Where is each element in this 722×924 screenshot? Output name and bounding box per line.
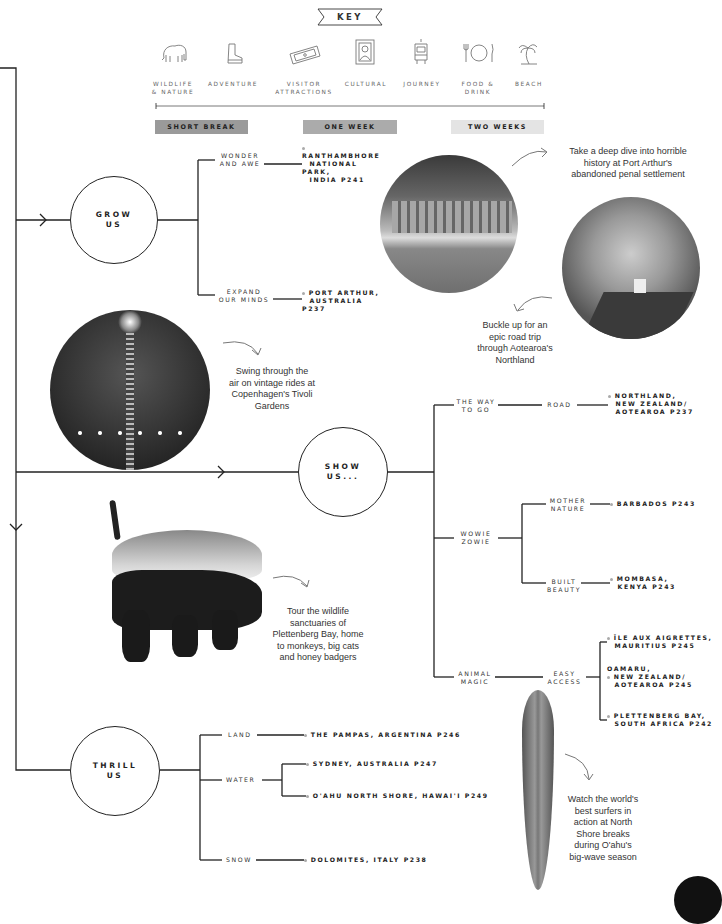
dest-the-pampas: THE PAMPAS, ARGENTINA P246 [304,731,504,739]
dest-ranthambhore: RANTHAMBHORE NATIONAL PARK, INDIA P241 [302,144,382,184]
key-title-banner: KEY [316,8,384,26]
blurb-port-arthur: Take a deep dive into horriblehistory at… [548,146,708,181]
dest-northland: NORTHLAND, NEW ZEALAND/ AOTEAROA P237 [608,392,718,416]
branch-road: ROAD [542,401,577,409]
dest-sydney: SYDNEY, AUSTRALIA P247 [306,760,506,768]
tivoli-ride-photo [50,310,210,470]
tram-icon [411,38,431,66]
dest-dolomites: DOLOMITES, ITALY P238 [304,856,504,864]
branch-land: LAND [228,731,252,739]
honey-badger-photo [112,500,262,670]
branch-expand-our-minds: EXPANDOUR MINDS [215,288,273,304]
node-grow-us: GROWUS [70,176,158,264]
port-arthur-ruins-photo [380,155,518,293]
branch-built-beauty: BUILTBEAUTY [546,578,582,594]
dest-mombasa: MOMBASA, KENYA P243 [610,575,718,591]
duration-one-week: ONE WEEK [303,120,397,134]
key-label-beach: BEACH [506,80,552,88]
node-thrill-us: THRILLUS [70,726,160,816]
key-label-food-drink: FOOD &DRINK [454,80,502,96]
branch-animal-magic: ANIMALMAGIC [454,670,496,686]
branch-wonder-and-awe: WONDERAND AWE [215,152,265,168]
page-number-badge [674,876,722,924]
ticket-icon [287,44,323,66]
branch-the-way-to-go: THE WAYTO GO [454,398,498,414]
blurb-oahu: Watch the world'sbest surfers inaction a… [562,794,644,863]
dest-ile-aux-aigrettes: ÎLE AUX AIGRETTES, MAURITIUS P245 [607,634,718,650]
blurb-tivoli: Swing through theair on vintage rides at… [222,366,322,412]
dest-plettenberg-bay: PLETTENBERG BAY, SOUTH AFRICA P242 [607,712,718,728]
blurb-northland: Buckle up for anepic road tripthrough Ao… [470,320,560,366]
branch-water: WATER [226,776,256,784]
key-label-journey: JOURNEY [398,80,446,88]
branch-snow: SNOW [226,856,252,864]
key-label-adventure: ADVENTURE [205,80,261,88]
blurb-plettenberg: Tour the wildlifesanctuaries ofPlettenbe… [268,606,368,664]
key-label-visitor-attractions: VISITORATTRACTIONS [272,80,336,96]
dest-barbados: BARBADOS P243 [610,500,718,508]
dest-oamaru: OAMARU, NEW ZEALAND/ AOTEAROA P245 [607,665,718,689]
node-show-us: SHOWUS... [298,427,388,517]
duration-short-break: SHORT BREAK [155,120,248,134]
northland-road-photo [562,197,700,339]
branch-mother-nature: MOTHERNATURE [546,497,590,513]
plate-cutlery-icon [462,42,496,64]
boot-icon [224,42,246,66]
dest-oahu-north-shore: O'AHU NORTH SHORE, HAWAI'I P249 [306,792,526,800]
palm-tree-icon [517,40,539,66]
duration-two-weeks: TWO WEEKS [451,120,544,134]
framed-portrait-icon [354,38,376,66]
key-title: KEY [316,12,384,22]
branch-wowie-zowie: WOWIEZOWIE [454,530,498,546]
key-label-cultural: CULTURAL [338,80,394,88]
branch-easy-access: EASYACCESS [543,670,586,686]
elephant-icon [160,40,190,66]
key-label-wildlife: WILDLIFE& NATURE [148,80,198,96]
dest-port-arthur: PORT ARTHUR, AUSTRALIA P237 [302,289,382,313]
